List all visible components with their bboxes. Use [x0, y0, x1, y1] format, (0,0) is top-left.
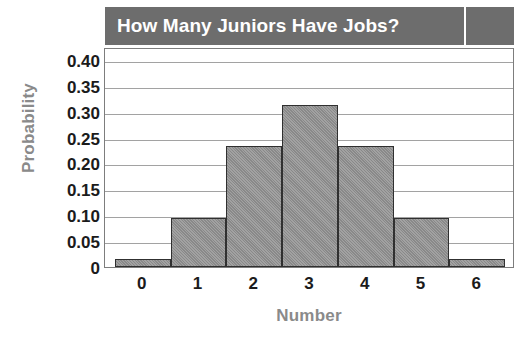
bar-3 [282, 105, 338, 267]
y-tick-label: 0.15 [40, 182, 100, 199]
bar-2 [226, 146, 282, 267]
bar-0 [115, 259, 171, 267]
chart-title: How Many Juniors Have Jobs? [117, 15, 400, 37]
plot-area [104, 48, 514, 268]
y-axis-label: Probability [19, 53, 39, 203]
y-tick-label: 0.10 [40, 208, 100, 225]
y-tick-label: 0.05 [40, 234, 100, 251]
bar-6 [449, 259, 505, 267]
y-tick-label: 0.30 [40, 104, 100, 121]
y-tick-label: 0 [40, 260, 100, 277]
x-tick-label: 1 [170, 274, 226, 294]
y-tick-label: 0.25 [40, 130, 100, 147]
bar-series [105, 49, 513, 267]
histogram-figure: How Many Juniors Have Jobs? Probability … [0, 0, 521, 345]
y-tick-label: 0.40 [40, 52, 100, 69]
y-axis-tick-labels: 00.050.100.150.200.250.300.350.40 [40, 0, 100, 345]
x-tick-label: 5 [393, 274, 449, 294]
x-axis-label: Number [104, 306, 514, 326]
bar-5 [394, 218, 450, 267]
x-tick-label: 6 [448, 274, 504, 294]
y-tick-label: 0.35 [40, 78, 100, 95]
bar-1 [171, 218, 227, 267]
bar-4 [338, 146, 394, 267]
x-tick-label: 3 [281, 274, 337, 294]
x-tick-label: 2 [225, 274, 281, 294]
x-axis-tick-labels: 0123456 [104, 274, 514, 300]
title-band-divider [464, 7, 466, 45]
x-tick-label: 0 [114, 274, 170, 294]
chart-title-band: How Many Juniors Have Jobs? [105, 7, 514, 45]
y-tick-label: 0.20 [40, 156, 100, 173]
x-tick-label: 4 [337, 274, 393, 294]
